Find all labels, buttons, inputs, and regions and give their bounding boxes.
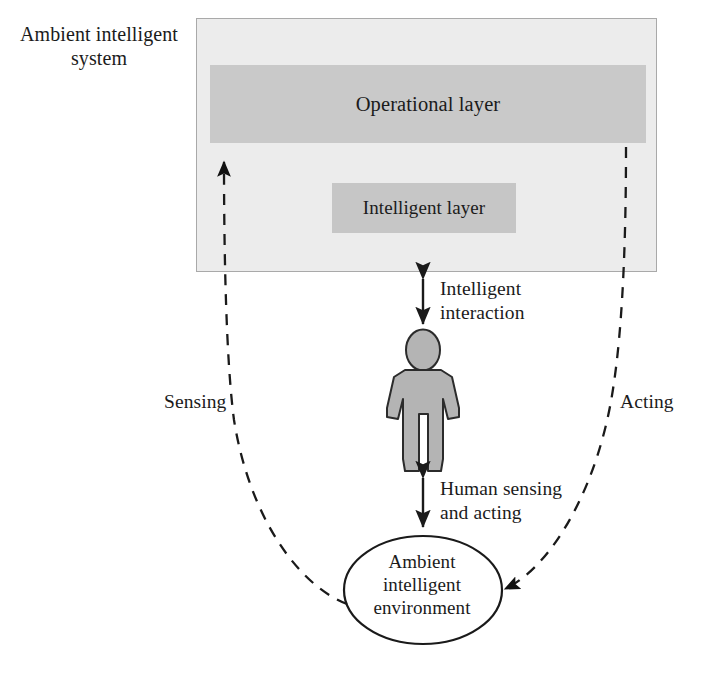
sensing-label: Sensing <box>164 390 226 414</box>
system-title: Ambient intelligent system <box>6 22 192 71</box>
ambient-intelligent-environment-label: Ambient intelligent environment <box>354 550 490 620</box>
intelligent-layer-label: Intelligent layer <box>332 196 516 219</box>
intelligent-interaction-label: Intelligent interaction <box>440 277 524 325</box>
diagram-canvas: Ambient intelligent system Operational l… <box>0 0 707 683</box>
acting-label: Acting <box>620 390 674 414</box>
ambient-intelligent-system-box <box>197 19 657 272</box>
human-figure <box>387 330 459 472</box>
operational-layer-label: Operational layer <box>210 92 646 117</box>
human-sensing-and-acting-label: Human sensing and acting <box>440 477 562 525</box>
